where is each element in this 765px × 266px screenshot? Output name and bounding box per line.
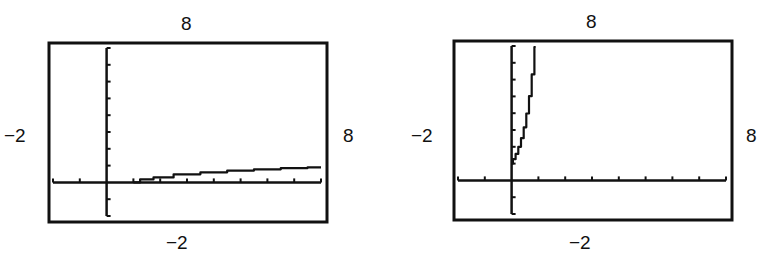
graph-panel-left: 8 −2 −2 8 bbox=[0, 0, 382, 266]
function-curve bbox=[133, 167, 321, 182]
graph-panel-right: 8 −2 −2 8 bbox=[383, 0, 765, 266]
graph-screen bbox=[383, 0, 765, 266]
screen-border bbox=[49, 43, 327, 222]
graph-screen bbox=[0, 0, 382, 266]
screen-border bbox=[454, 41, 732, 220]
